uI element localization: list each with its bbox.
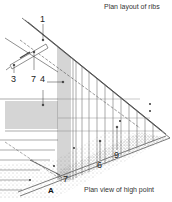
label-6: 6 bbox=[97, 160, 102, 170]
label-1: 1 bbox=[40, 14, 45, 24]
label-4: 4 bbox=[40, 74, 45, 84]
label-7-bottom: 7 bbox=[63, 174, 68, 184]
label-7-top: 7 bbox=[31, 74, 36, 84]
rib-detail bbox=[6, 44, 48, 70]
caption-top: Plan layout of ribs bbox=[104, 3, 160, 10]
label-9: 9 bbox=[114, 150, 119, 160]
caption-bottom: Plan view of high point bbox=[84, 186, 154, 193]
label-A: A bbox=[48, 186, 54, 195]
label-3: 3 bbox=[11, 74, 16, 84]
rib-layout-diagram bbox=[0, 0, 172, 202]
